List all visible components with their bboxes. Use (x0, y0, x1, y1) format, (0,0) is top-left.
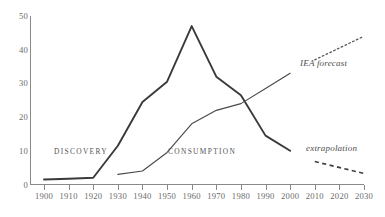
y-tick-label: 0 (23, 180, 28, 190)
chart-plot-area (0, 0, 385, 217)
x-tick-label: 2030 (355, 191, 373, 201)
x-tick-label: 1980 (232, 191, 250, 201)
x-tick-label: 1960 (183, 191, 201, 201)
series-line-discovery (44, 26, 290, 179)
annotation-label-extrapolation: extrapolation (306, 143, 357, 153)
series-label-consumption: CONSUMPTION (168, 147, 236, 156)
y-tick-label: 40 (19, 45, 28, 55)
x-tick-label: 1910 (60, 191, 78, 201)
axes-group (31, 16, 365, 185)
annotation-label-iea-forecast: IEA forecast (300, 58, 347, 68)
series-line-extrapolation (315, 162, 364, 174)
x-tick-label: 1950 (158, 191, 176, 201)
x-tick-label: 1900 (35, 191, 53, 201)
y-tick-label: 30 (19, 78, 28, 88)
series-group (44, 26, 364, 179)
oil-discovery-consumption-chart: 1900191019201930194019501960197019801990… (0, 0, 385, 217)
x-tick-label: 1930 (109, 191, 127, 201)
y-tick-label: 50 (19, 11, 28, 21)
y-tick-label: 10 (19, 146, 28, 156)
x-tick-label: 2000 (281, 191, 299, 201)
series-label-discovery: DISCOVERY (54, 147, 108, 156)
x-tick-label: 1970 (207, 191, 225, 201)
x-tick-label: 1920 (84, 191, 102, 201)
x-tick-label: 2010 (306, 191, 324, 201)
series-line-iea-forecast (315, 36, 364, 60)
y-tick-label: 20 (19, 112, 28, 122)
x-tick-label: 1990 (256, 191, 274, 201)
x-axis-ticks (45, 185, 365, 190)
x-tick-label: 2020 (330, 191, 348, 201)
x-tick-label: 1940 (133, 191, 151, 201)
series-line-consumption (118, 73, 290, 174)
